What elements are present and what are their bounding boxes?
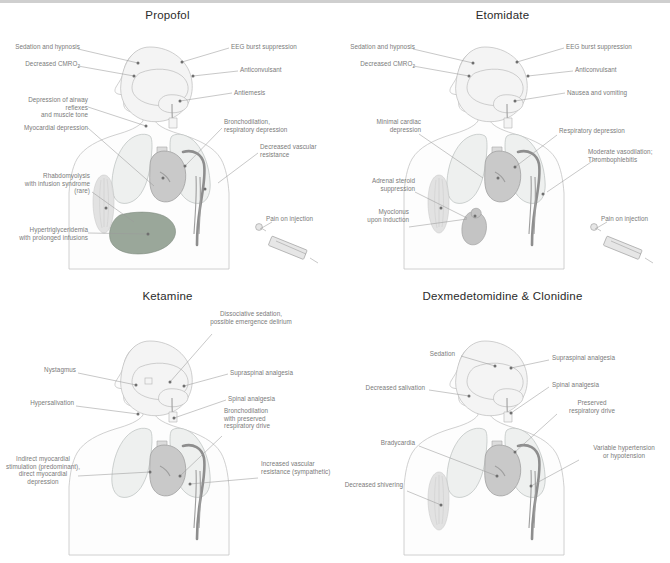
label-increased-vascular-resistance: Increased vascular resistance (sympathet… [261,460,339,475]
label-sedation-and-hypnosis: Sedation and hypnosis [8,43,80,51]
label-nausea-and-vomiting: Nausea and vomiting [567,89,663,97]
label-decreased-shivering: Decreased shivering [337,481,403,489]
label-antiemesis: Antiemesis [234,89,326,97]
label-dissociative-sedation: Dissociative sedation, possible emergenc… [195,310,307,325]
label-sedation: Sedation [397,350,455,358]
label-myocardial-depression: Myocardial depression [10,124,88,132]
label-eeg-burst-suppression: EEG burst suppression [231,43,331,51]
label-decreased-cmro2: Decreased CMRO2 [8,60,80,71]
label-variable-hypertension: Variable hypertension or hypotension [581,444,667,459]
label-supraspinal-analgesia: Supraspinal analgesia [552,354,654,362]
label-bradycardia: Bradycardia [365,439,415,447]
label-moderate-vasodilation: Moderate vasodilation; Thrombophlebitis [588,148,670,163]
body-figure [404,341,564,555]
label-decreased-salivation: Decreased salivation [345,384,425,392]
syringe-icon [591,224,653,263]
label-myoclonus-upon-induction: Myoclonus upon induction [339,208,409,223]
label-nystagmus: Nystagmus [16,366,76,374]
label-spinal-analgesia: Spinal analgesia [228,395,322,403]
syringe-icon [256,224,318,263]
label-decreased-vascular-resistance: Decreased vascular resistance [260,143,334,158]
label-pain-on-injection: Pain on injection [266,215,334,223]
label-anticonvulsant: Anticonvulsant [575,66,667,74]
anesthetic-agents-figure: Propofol [0,0,670,563]
panel-ketamine: Ketamine [0,282,335,563]
panel-dexmedetomidine-clonidine: Dexmedetomidine & Clonidine [335,282,670,563]
panel-propofol: Propofol [0,0,335,281]
label-preserved-respiratory-drive: Preserved respiratory drive [551,399,633,414]
label-adrenal-steroid-suppression: Adrenal steroid suppression [343,177,415,192]
dexmedetomidine-anatomy-illustration [335,282,670,563]
label-rhabdomyolysis: Rhabdomyolysis with infusion syndrome (r… [10,172,90,195]
panel-etomidate: Etomidate [335,0,670,281]
label-depression-of-airway-reflexes: Depression of airway reflexes and muscle… [4,96,88,119]
label-spinal-analgesia: Spinal analgesia [552,381,646,389]
label-decreased-cmro2: Decreased CMRO2 [343,60,415,71]
label-minimal-cardiac-depression: Minimal cardiac depression [349,118,421,133]
label-respiratory-depression: Respiratory depression [559,127,659,135]
label-supraspinal-analgesia: Supraspinal analgesia [230,369,332,377]
label-hypertriglyceridemia: Hypertriglyceridemia with prolonged infu… [4,226,88,241]
label-sedation-and-hypnosis: Sedation and hypnosis [343,43,415,51]
label-indirect-myocardial-stimulation: Indirect myocardial stimulation (predomi… [4,455,82,485]
body-figure [69,341,229,555]
label-eeg-burst-suppression: EEG burst suppression [566,43,666,51]
label-anticonvulsant: Anticonvulsant [240,66,332,74]
label-hypersalivation: Hypersalivation [8,399,74,407]
label-pain-on-injection: Pain on injection [601,215,669,223]
label-bronchodilation-preserved-drive: Bronchodilation with preserved respirato… [224,407,300,430]
label-bronchodilation: Bronchodilation, respiratory depression [224,118,316,133]
